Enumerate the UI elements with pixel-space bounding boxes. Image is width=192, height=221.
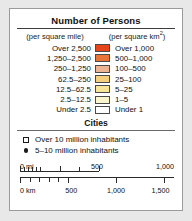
density-miles-label: 62.5–250: [16, 75, 95, 84]
density-miles-label: Under 2.5: [16, 105, 95, 114]
scale-miles-minor-tick: [40, 167, 41, 171]
scale-km-origin-label: 0 km: [20, 186, 36, 195]
scale-km-major-tick: [20, 178, 21, 183]
density-color-swatch: [95, 65, 110, 73]
scale-km-major-tick: [164, 178, 165, 183]
scale-km-major-tick: [68, 178, 69, 183]
scale-miles-major-tick: [20, 166, 21, 171]
density-miles-label: 250–1,250: [16, 64, 95, 73]
square-marker-glyph: [23, 137, 29, 143]
density-km-label: 25–100: [110, 75, 176, 84]
density-legend-row: 12.5–62.55–25: [16, 84, 176, 94]
scale-miles-minor-tick: [28, 167, 29, 171]
density-legend-row: Over 2,500Over 1,000: [16, 43, 176, 53]
scale-bar: 0 mi 500 1,000 0 km 500 1,000 1,500: [20, 162, 174, 192]
density-km-label: 100–500: [110, 64, 176, 73]
scale-miles-minor-tick: [32, 167, 33, 171]
city-legend-row: 5–10 million inhabitants: [16, 145, 176, 156]
density-miles-label: Over 2,500: [16, 44, 95, 53]
density-color-swatch: [95, 96, 110, 104]
density-color-swatch: [95, 85, 110, 93]
scale-miles-minor-tick: [79, 167, 80, 171]
density-color-swatch: [95, 75, 110, 83]
density-legend-row: 250–1,250100–500: [16, 64, 176, 74]
scale-miles-minor-tick: [24, 167, 25, 171]
city-legend-label: 5–10 million inhabitants: [32, 146, 119, 155]
scale-km-axis-line: [20, 177, 174, 178]
title-divider: [17, 28, 175, 29]
density-miles-label: 12.5–62.5: [16, 85, 95, 94]
scale-km-labels: 0 km 500 1,000 1,500: [20, 186, 174, 195]
scale-km-axis: [20, 177, 174, 183]
cities-divider: [17, 130, 175, 131]
scale-km-minor-tick: [30, 178, 31, 182]
unit-header-km-suffix: ): [163, 32, 166, 41]
scale-km-1500-label: 1,500: [152, 186, 170, 195]
circle-marker-glyph: [24, 148, 29, 153]
scale-miles-axis-line: [20, 171, 99, 172]
square-marker-icon: [20, 137, 32, 143]
density-legend-row: 2.5–12.51–5: [16, 94, 176, 104]
density-miles-label: 2.5–12.5: [16, 95, 95, 104]
density-km-label: Under 1: [110, 105, 176, 114]
scale-km-1000-label: 1,000: [107, 186, 125, 195]
density-legend-rows: Over 2,500Over 1,0001,250–2,500500–1,000…: [16, 43, 176, 115]
scale-km-500-label: 500: [65, 186, 77, 195]
density-km-label: 5–25: [110, 85, 176, 94]
scale-miles-1000-label: 1,000: [156, 162, 174, 171]
density-color-swatch: [95, 106, 110, 114]
unit-header-km-prefix: (per square km: [109, 32, 160, 41]
map-legend-panel: Number of Persons (per square mile) (per…: [9, 8, 183, 211]
scale-km-minor-tick: [39, 178, 40, 182]
density-km-label: Over 1,000: [110, 44, 176, 53]
density-km-label: 1–5: [110, 95, 176, 104]
cities-heading: Cities: [16, 118, 176, 128]
scale-miles-minor-tick: [36, 167, 37, 171]
scale-km-major-tick: [116, 178, 117, 183]
density-legend-row: Under 2.5Under 1: [16, 105, 176, 115]
legend-title: Number of Persons: [16, 15, 176, 26]
circle-marker-icon: [20, 148, 32, 153]
density-color-swatch: [95, 54, 110, 62]
unit-header-miles: (per square mile): [16, 32, 94, 41]
density-miles-label: 1,250–2,500: [16, 54, 95, 63]
density-km-label: 500–1,000: [110, 54, 176, 63]
density-legend-row: 1,250–2,500500–1,000: [16, 53, 176, 63]
city-legend-row: Over 10 million inhabitants: [16, 134, 176, 145]
city-legend-rows: Over 10 million inhabitants5–10 million …: [16, 134, 176, 156]
scale-km-minor-tick: [58, 178, 59, 182]
unit-headers: (per square mile) (per square km2): [16, 32, 176, 41]
density-legend-row: 62.5–25025–100: [16, 74, 176, 84]
scale-km-minor-tick: [49, 178, 50, 182]
scale-miles-major-tick: [99, 166, 100, 171]
city-legend-label: Over 10 million inhabitants: [32, 135, 129, 144]
density-color-swatch: [95, 44, 110, 52]
scale-miles-500-label: 500: [91, 162, 103, 171]
scale-miles-labels: 0 mi 500 1,000: [20, 162, 174, 171]
scale-miles-major-tick: [60, 166, 61, 171]
unit-header-km: (per square km2): [98, 32, 176, 41]
